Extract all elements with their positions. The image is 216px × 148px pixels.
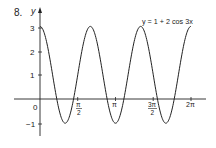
cosine-curve	[40, 26, 191, 123]
y-axis-arrow-icon	[38, 7, 42, 13]
x-tick-pi-over-2: π 2	[76, 101, 82, 116]
y-tick-1: 1	[30, 71, 35, 80]
y-tick-3: 3	[30, 24, 35, 33]
svg-text:π: π	[76, 101, 81, 108]
x-tick-3pi-over-2: 3π 2	[148, 101, 157, 116]
y-tick-minus1: −1	[26, 120, 36, 129]
svg-text:2: 2	[151, 109, 155, 116]
x-tick-2pi: 2π	[186, 101, 195, 108]
svg-text:2: 2	[77, 109, 81, 116]
cosine-graph: 8. y 3 2 1 −1 0 π 2 π 3π 2 2π y = 1 + 2 …	[0, 0, 216, 148]
y-axis-label: y	[30, 6, 36, 16]
x-tick-pi: π	[112, 101, 117, 108]
svg-text:3π: 3π	[148, 101, 157, 108]
problem-number: 8.	[14, 7, 22, 18]
equation-label: y = 1 + 2 cos 3x	[142, 17, 193, 26]
y-tick-2: 2	[30, 48, 35, 57]
x-tick-0: 0	[33, 103, 38, 112]
